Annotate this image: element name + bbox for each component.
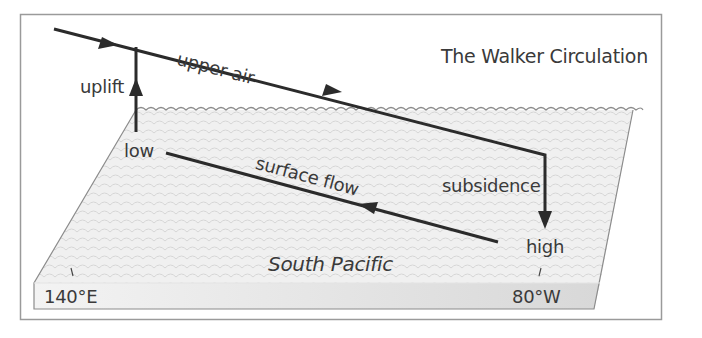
- label-subsidence: subsidence: [442, 175, 540, 196]
- label-140E: 140°E: [44, 286, 97, 307]
- sea-slab: [34, 108, 643, 310]
- diagram-title: The Walker Circulation: [441, 45, 648, 67]
- label-ocean: South Pacific: [268, 252, 393, 276]
- label-low: low: [124, 140, 154, 161]
- label-80W: 80°W: [512, 286, 561, 307]
- label-uplift: uplift: [80, 76, 124, 97]
- label-high: high: [526, 236, 564, 257]
